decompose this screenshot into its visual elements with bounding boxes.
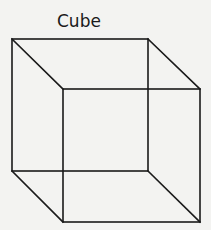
edge-top-right [148, 39, 200, 89]
edge-bottom-left [12, 171, 63, 222]
cube-wireframe [0, 0, 211, 230]
edge-top-left [12, 39, 63, 89]
edge-bottom-right [148, 171, 200, 222]
